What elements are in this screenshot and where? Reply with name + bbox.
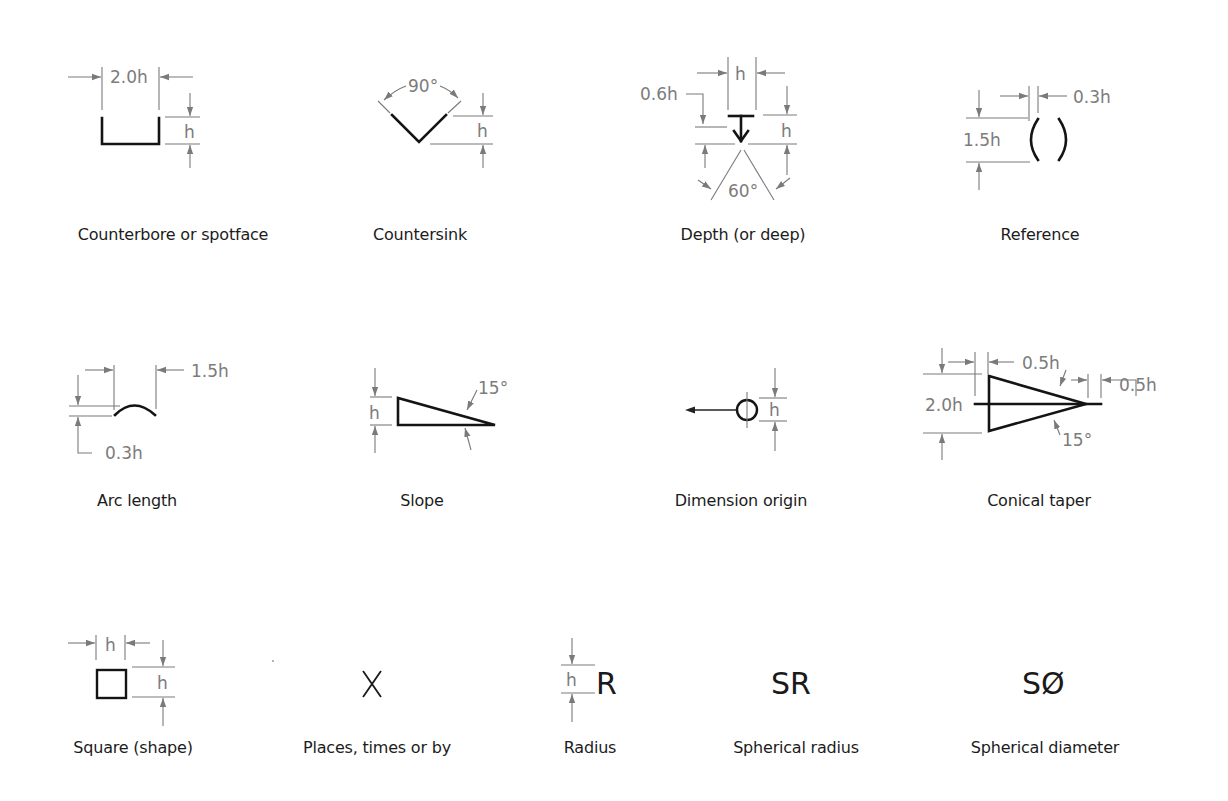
arc-length-width-label: 1.5h bbox=[191, 361, 229, 381]
depth-width-label: h bbox=[735, 64, 746, 84]
countersink-height-label: h bbox=[477, 121, 488, 141]
counterbore-symbol: 2.0h h bbox=[68, 67, 200, 168]
conical-taper-angle-label: 15° bbox=[1062, 430, 1092, 450]
countersink-angle-label: 90° bbox=[408, 76, 438, 96]
conical-taper-right-offset-label: 0.5h bbox=[1119, 375, 1157, 395]
caption-spherical-diameter: Spherical diameter bbox=[971, 738, 1119, 757]
spherical-radius-symbol: SR bbox=[771, 666, 811, 701]
depth-angle-label: 60° bbox=[728, 181, 758, 201]
reference-height-label: 1.5h bbox=[963, 130, 1001, 150]
depth-height-label: h bbox=[781, 121, 792, 141]
radius-height-label: h bbox=[566, 670, 577, 690]
caption-reference: Reference bbox=[1001, 225, 1080, 244]
slope-symbol: h 15° bbox=[369, 368, 508, 453]
spherical-radius-glyph: SR bbox=[771, 666, 811, 701]
reference-gap-label: 0.3h bbox=[1073, 87, 1111, 107]
caption-places: Places, times or by bbox=[303, 738, 451, 757]
caption-square: Square (shape) bbox=[73, 738, 192, 757]
square-symbol: h h bbox=[68, 635, 175, 726]
dimensioning-symbols-diagram: 2.0h h 90° h h 0.6h bbox=[0, 0, 1228, 801]
caption-radius: Radius bbox=[564, 738, 616, 757]
arc-length-symbol: 1.5h 0.3h bbox=[69, 361, 229, 463]
counterbore-height-label: h bbox=[184, 122, 195, 142]
caption-conical-taper: Conical taper bbox=[987, 491, 1091, 510]
places-symbol bbox=[272, 660, 381, 697]
caption-depth: Depth (or deep) bbox=[681, 225, 806, 244]
caption-spherical-radius: Spherical radius bbox=[733, 738, 859, 757]
depth-offset-label: 0.6h bbox=[640, 84, 678, 104]
dimension-origin-symbol: h bbox=[685, 368, 787, 451]
dimension-origin-diameter-label: h bbox=[769, 400, 780, 420]
slope-height-label: h bbox=[369, 403, 380, 423]
caption-slope: Slope bbox=[400, 491, 443, 510]
spherical-diameter-symbol: SØ bbox=[1022, 666, 1065, 701]
caption-arc-length: Arc length bbox=[97, 491, 177, 510]
spherical-diameter-glyph: SØ bbox=[1022, 666, 1065, 701]
conical-taper-height-label: 2.0h bbox=[925, 395, 963, 415]
caption-countersink: Countersink bbox=[373, 225, 467, 244]
slope-angle-label: 15° bbox=[478, 378, 508, 398]
arc-length-height-label: 0.3h bbox=[105, 443, 143, 463]
caption-counterbore: Counterbore or spotface bbox=[78, 225, 269, 244]
radius-glyph: R bbox=[596, 666, 617, 701]
radius-symbol: h R bbox=[561, 638, 617, 722]
caption-dimension-origin: Dimension origin bbox=[675, 491, 808, 510]
conical-taper-left-offset-label: 0.5h bbox=[1022, 353, 1060, 373]
countersink-symbol: 90° h bbox=[378, 76, 493, 168]
reference-symbol: 0.3h 1.5h bbox=[963, 86, 1111, 190]
square-width-label: h bbox=[105, 635, 116, 655]
counterbore-width-label: 2.0h bbox=[110, 67, 148, 87]
depth-symbol: h 0.6h h 60° bbox=[640, 57, 797, 201]
square-height-label: h bbox=[157, 673, 168, 693]
conical-taper-symbol: 0.5h 0.5h 2.0h 15° bbox=[923, 348, 1157, 460]
